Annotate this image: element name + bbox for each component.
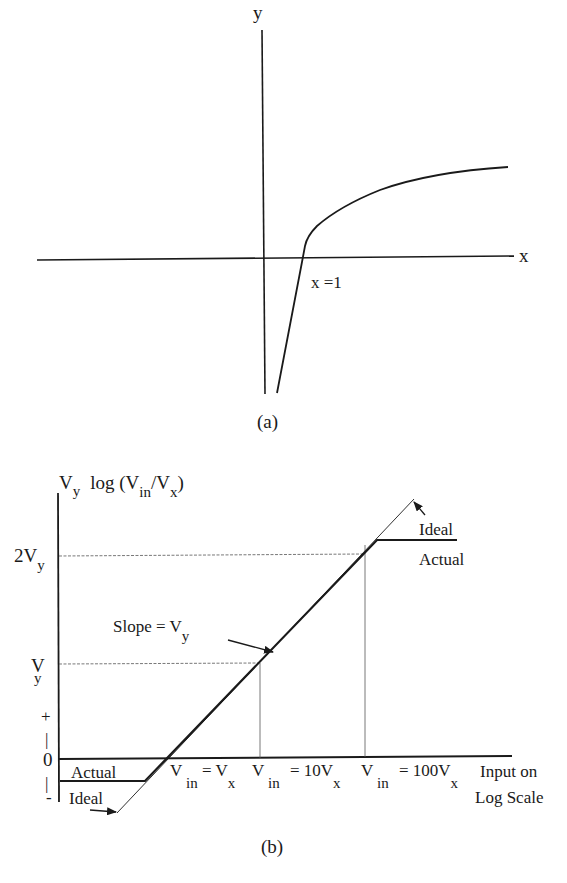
x-equals-1-label: x =1 [311,273,342,292]
slope-label: Slope = Vy [113,617,190,644]
x-tick-100vx: Vin = 100Vx [361,761,459,791]
actual-line [60,540,457,781]
tick-minus: - [46,788,52,807]
x-axis-label-a: x [519,245,529,266]
ideal-bottom-label: Ideal [69,789,103,808]
y-axis-b [58,493,59,802]
x-axis-title-line1: Input on [480,762,538,781]
ideal-top-label: Ideal [419,520,453,539]
caption-b: (b) [261,836,283,858]
figure-b: Vylog (Vin/Vx) 2Vy Vy + | 0 | - Ideal Ac… [14,472,543,858]
x-axis-b [59,756,512,759]
tick-zero: 0 [43,749,53,770]
tick-plus: + [41,707,51,726]
ref-line-2vy [59,554,364,556]
x-tick-10vx: Vin = 10Vx [252,761,341,791]
x-tick-vx: Vin = Vx [170,761,236,791]
actual-top-label: Actual [419,550,465,569]
ideal-bottom-arrow [90,810,116,812]
slope-arrow [228,640,273,652]
tick-vy: Vy [31,655,45,686]
actual-bottom-label: Actual [71,763,117,782]
tick-2vy: 2Vy [14,545,45,573]
tick-bar-top: | [45,730,48,749]
ideal-top-arrow [414,502,425,515]
y-axis-title-b: Vylog (Vin/Vx) [59,472,184,500]
caption-a: (a) [257,411,278,433]
y-axis-label-a: y [253,2,263,23]
x-axis-a [37,256,514,260]
y-axis-a [262,30,265,394]
ref-line-vy [59,663,259,664]
figure: y x x =1 (a) Vylog (Vin/Vx) 2Vy Vy + | 0… [0,0,567,883]
x-axis-title-line2: Log Scale [475,788,543,807]
figure-a: y x x =1 (a) [37,2,529,433]
